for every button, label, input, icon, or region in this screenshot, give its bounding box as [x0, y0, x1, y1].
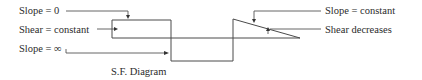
arrowhead-icon — [252, 19, 256, 23]
label-slope-infinity: Slope = ∞ — [19, 43, 62, 54]
leader-slope-infinity — [66, 49, 166, 53]
diagram-title: S.F. Diagram — [111, 66, 166, 77]
label-slope-zero: Slope = 0 — [19, 5, 59, 16]
label-shear-decreases: Shear decreases — [325, 24, 392, 35]
label-shear-constant: Shear = constant — [19, 24, 89, 35]
leader-slope-zero — [66, 11, 128, 17]
shear-force-diagram: Slope = 0 Shear = constant Slope = ∞ S.F… — [0, 0, 422, 80]
arrowhead-icon — [126, 15, 130, 19]
sloping-shear-line — [233, 19, 300, 38]
positive-shear-block — [112, 20, 171, 38]
label-slope-constant: Slope = constant — [325, 5, 395, 16]
arrowhead-icon — [114, 27, 118, 31]
arrowhead-icon — [164, 51, 169, 55]
negative-shear-block — [171, 19, 233, 61]
leader-slope-constant — [254, 11, 321, 20]
